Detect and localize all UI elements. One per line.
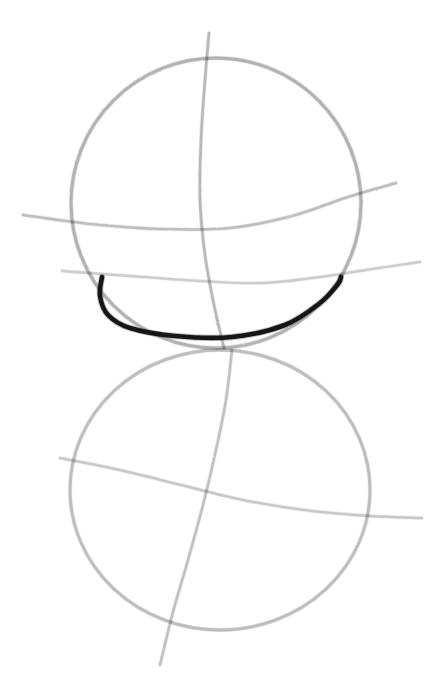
sketch-drawing — [0, 0, 444, 690]
sketch-canvas — [0, 0, 444, 690]
